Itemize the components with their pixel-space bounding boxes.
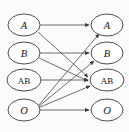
edges-layer: [38, 25, 99, 110]
node-right-ab[interactable]: AB: [90, 69, 124, 91]
bipartite-mapping-diagram: ABABOABABO: [0, 0, 129, 132]
node-label-right-ab: AB: [101, 76, 114, 86]
node-label-left-o: O: [20, 105, 28, 116]
node-left-a[interactable]: A: [8, 14, 40, 36]
node-right-b[interactable]: B: [91, 42, 123, 64]
edge-a-to-ab: [38, 32, 88, 77]
edge-b-to-ab: [39, 58, 88, 81]
node-label-left-b: B: [21, 48, 28, 59]
node-right-o[interactable]: O: [91, 99, 123, 121]
diagram-canvas: ABABOABABO: [0, 0, 129, 132]
nodes-layer: ABABOABABO: [7, 14, 124, 121]
node-label-right-a: A: [103, 20, 111, 31]
node-left-b[interactable]: B: [8, 42, 40, 64]
node-right-a[interactable]: A: [91, 14, 123, 36]
node-label-right-b: B: [104, 48, 111, 59]
node-label-left-a: A: [20, 20, 28, 31]
node-left-ab[interactable]: AB: [7, 69, 41, 91]
node-label-left-ab: AB: [18, 76, 31, 86]
node-left-o[interactable]: O: [8, 99, 40, 121]
edge-o-to-b: [38, 61, 94, 107]
node-label-right-o: O: [103, 105, 111, 116]
